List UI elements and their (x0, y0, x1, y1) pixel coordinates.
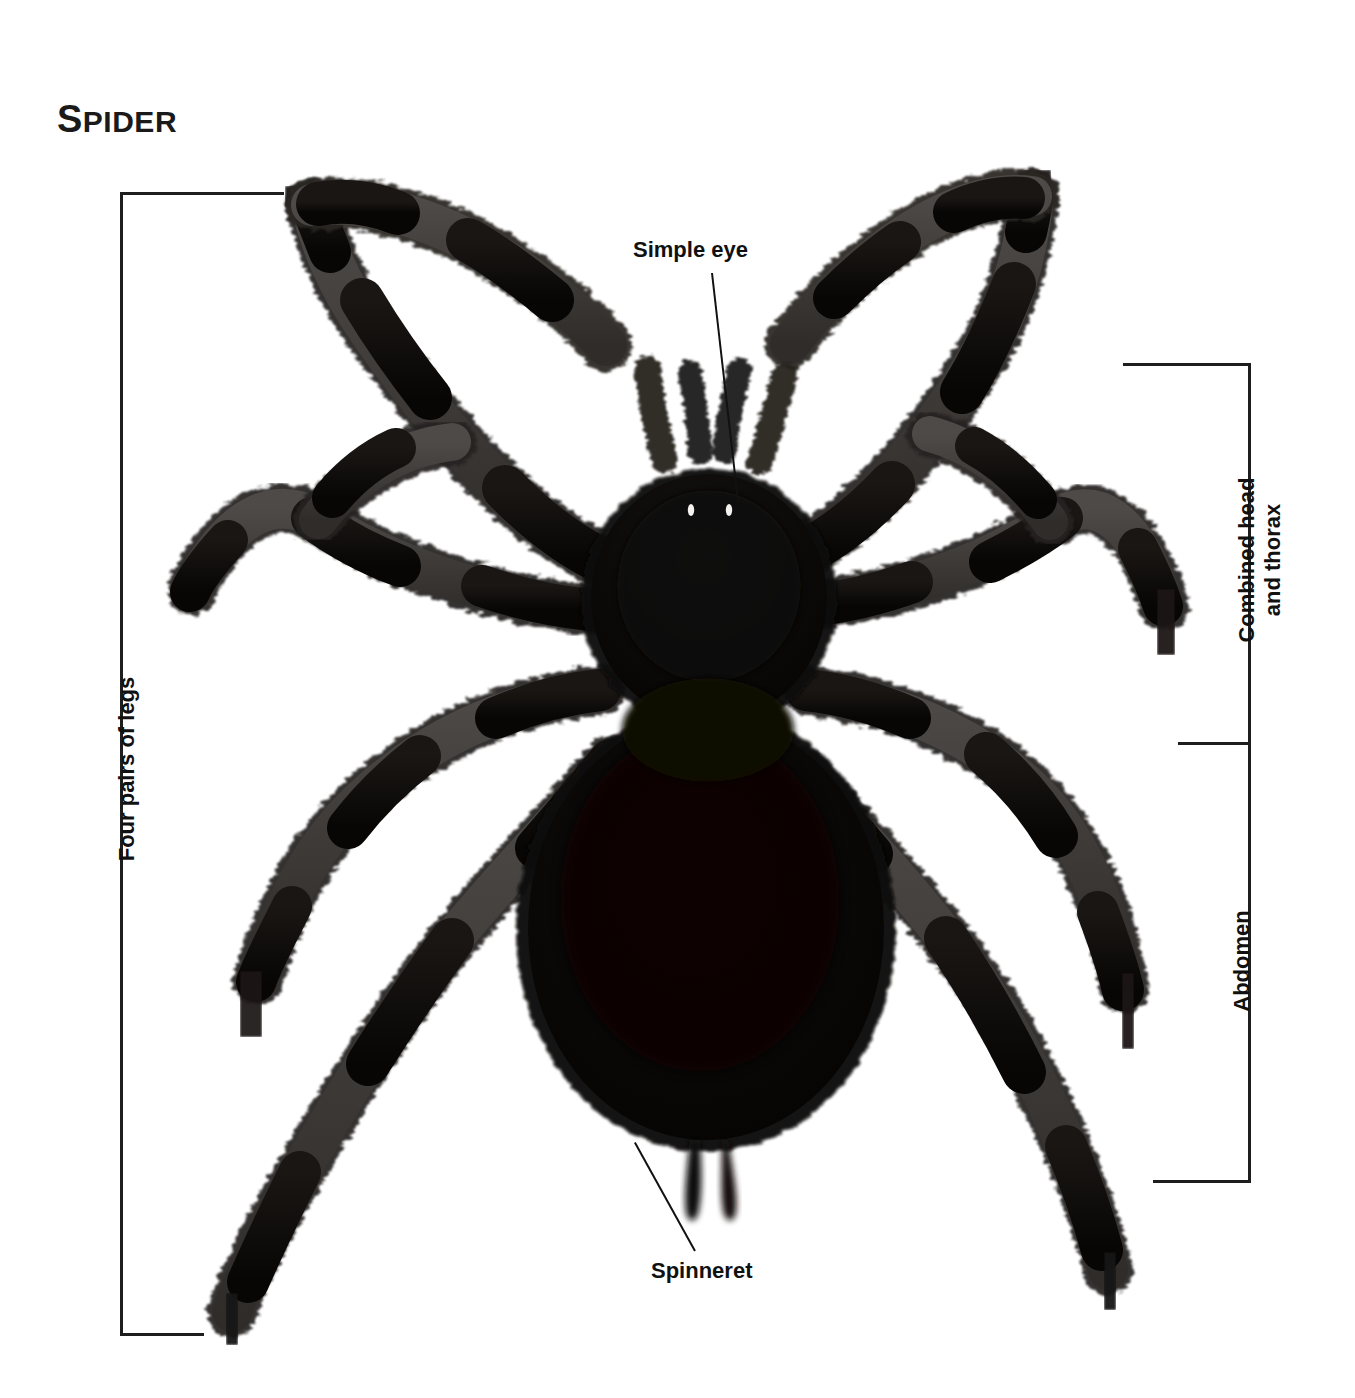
leader-line-simple-eye (711, 273, 739, 504)
label-simple-eye: Simple eye (633, 237, 748, 263)
label-spinneret: Spinneret (651, 1258, 752, 1284)
label-head-line1: Combined head (1234, 478, 1259, 643)
eye-highlight-left (688, 504, 694, 516)
label-abdomen: Abdomen (1229, 881, 1257, 1041)
label-head-line2: and thorax (1260, 504, 1285, 616)
title-remainder: PIDER (83, 105, 177, 138)
bracket-left-bottom-arm (120, 1333, 204, 1336)
spider-anatomy-figure: SPIDER Four pairs of legs Combined heada… (0, 0, 1355, 1398)
legs-left (190, 190, 610, 1336)
bracket-left-top-arm (120, 192, 284, 195)
bracket-abdomen-bottom-arm (1153, 1180, 1251, 1183)
eye-highlight-right (726, 504, 732, 516)
label-four-pairs-of-legs: Four pairs of legs (114, 639, 142, 899)
spinnerets (685, 1140, 736, 1221)
bracket-head-top-arm (1123, 363, 1251, 366)
leader-line-spinneret (634, 1142, 696, 1251)
abdomen-shape (516, 678, 896, 1152)
pedipalps (648, 368, 784, 462)
spider-illustration (0, 0, 1355, 1398)
legs-right (790, 176, 1172, 1300)
title-initial: S (57, 98, 83, 140)
page-title: SPIDER (57, 100, 177, 138)
bracket-head-bottom-arm (1178, 742, 1251, 745)
cephalothorax (581, 468, 837, 732)
label-combined-head-and-thorax: Combined headand thorax (1234, 442, 1290, 678)
